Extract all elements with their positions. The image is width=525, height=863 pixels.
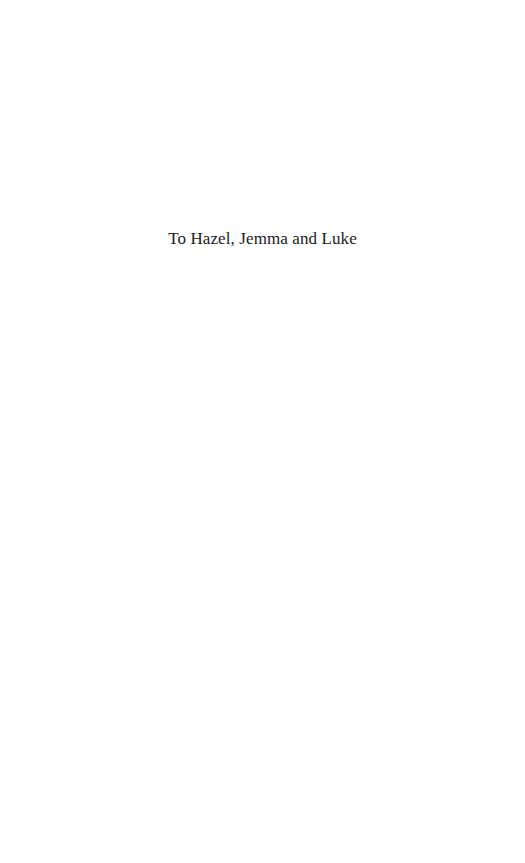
dedication-text: To Hazel, Jemma and Luke [0, 228, 525, 250]
document-page: To Hazel, Jemma and Luke [0, 0, 525, 863]
